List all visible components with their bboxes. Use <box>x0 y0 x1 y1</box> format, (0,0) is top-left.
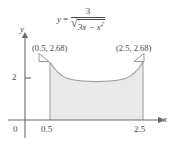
left-point-label: (0.5, 2.68) <box>32 44 67 53</box>
x-tick-label-0-5: 0.5 <box>41 125 52 134</box>
equation-fraction: 3 √ 3x − x2 <box>71 6 105 32</box>
right-point-label: (2.5, 2.68) <box>116 44 151 53</box>
origin-label: 0 <box>13 125 18 134</box>
figure-canvas: y = 3 √ 3x − x2 (0.5, 2.68) (2.5, 2.68) … <box>0 0 174 148</box>
x-tick-label-2-5: 2.5 <box>134 125 145 134</box>
radicand-exponent: 2 <box>101 21 104 27</box>
equation-denominator: √ 3x − x2 <box>71 18 105 32</box>
right-label-leader <box>134 54 144 62</box>
equation-lhs: y <box>57 14 61 24</box>
shaded-area-region <box>50 62 143 120</box>
equation-expression: y = 3 √ 3x − x2 <box>57 6 105 32</box>
y-tick-label-2: 2 <box>12 73 17 82</box>
y-axis-label: y <box>20 25 24 34</box>
equation-radicand: 3x − x2 <box>77 19 105 32</box>
x-axis-label: x <box>163 115 167 124</box>
radicand-base: 3x − x <box>78 22 101 32</box>
left-label-leader <box>39 54 49 62</box>
equation-equals-sign: = <box>63 14 68 24</box>
